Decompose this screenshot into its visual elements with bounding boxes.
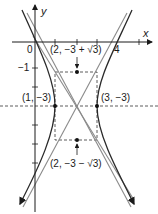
origin-label: 0 bbox=[27, 44, 33, 55]
hyperbola-left-branch bbox=[20, 10, 55, 204]
vertex-right-label: (3, −3) bbox=[101, 92, 130, 103]
hyperbola-diagram: y x 0 4 −1 (1, −3) (3, −3) (2, −3 + √3) … bbox=[0, 0, 158, 214]
focus-bottom-label: (2, −3 − √3) bbox=[50, 158, 102, 169]
vertex-left-point bbox=[53, 104, 57, 108]
x-axis-label: x bbox=[142, 27, 149, 39]
y-axis-label: y bbox=[40, 5, 48, 17]
vertex-left-label: (1, −3) bbox=[22, 92, 51, 103]
focus-top-point bbox=[75, 70, 79, 74]
x-tick-4-label: 4 bbox=[114, 44, 120, 55]
focus-top-label: (2, −3 + √3) bbox=[50, 44, 102, 55]
focus-bottom-point bbox=[75, 138, 79, 142]
hyperbola-right-branch bbox=[97, 10, 134, 204]
vertex-right-point bbox=[95, 104, 99, 108]
y-tick-neg1-label: −1 bbox=[18, 62, 30, 73]
